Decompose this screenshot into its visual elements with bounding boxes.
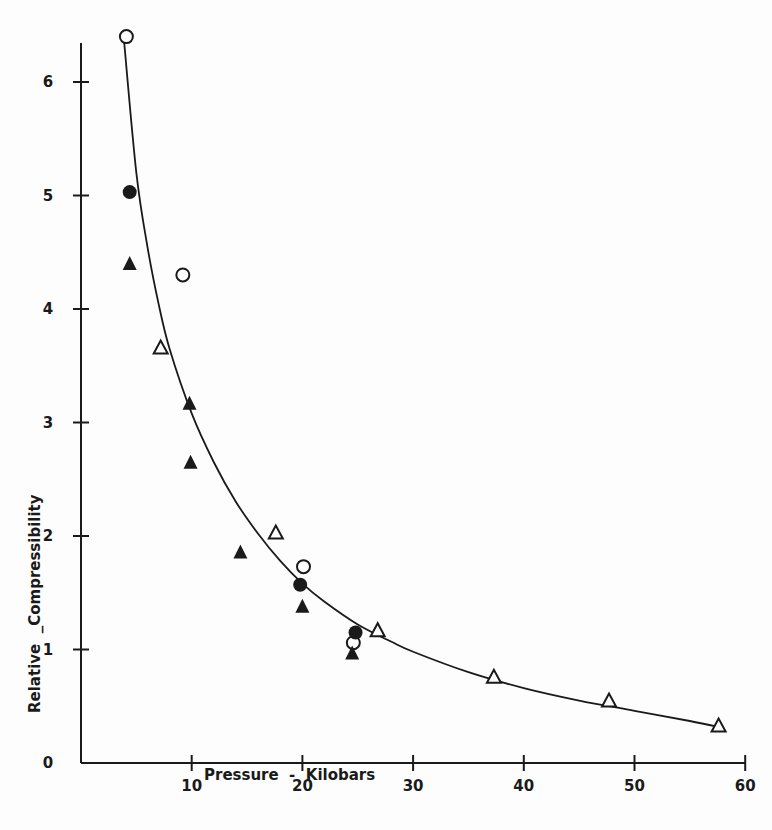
y-tick-label: 2 [43,527,53,545]
open-triangle-marker [487,670,501,683]
filled-triangle-marker [182,396,196,410]
x-tick-label: 40 [513,777,534,795]
x-tick-label: 60 [735,777,756,795]
y-axis-label: Relative _Compressibility [26,494,44,713]
open-triangle-marker [602,694,616,707]
fit-curve [124,42,723,728]
compressibility-chart: 0123456 102030405060 Pressure - Kilobars… [0,0,772,830]
axes [81,43,746,763]
open-triangle-marker [371,623,385,636]
open-triangle-marker [269,526,283,539]
filled-triangle-marker [233,544,247,558]
y-axis-ticks: 0123456 [43,73,89,772]
y-tick-label: 1 [43,641,53,659]
open-circle-marker [120,30,133,43]
filled-circle-marker [349,625,363,639]
y-tick-label: 0 [43,754,53,772]
x-tick-label: 50 [624,777,645,795]
x-axis-label: Pressure - Kilobars [204,766,375,784]
data-markers [120,30,726,731]
x-tick-label: 10 [181,777,202,795]
y-tick-label: 5 [43,187,53,205]
open-circle-marker [176,268,189,281]
filled-circle-marker [293,578,307,592]
filled-triangle-marker [295,599,309,613]
filled-circle-marker [123,185,137,199]
filled-triangle-marker [184,455,198,469]
filled-triangle-marker [123,256,137,270]
x-tick-label: 30 [403,777,424,795]
y-tick-label: 6 [43,73,53,91]
open-triangle-marker [154,341,168,354]
y-tick-label: 3 [43,414,53,432]
open-circle-marker [297,560,310,573]
y-tick-label: 4 [43,300,53,318]
